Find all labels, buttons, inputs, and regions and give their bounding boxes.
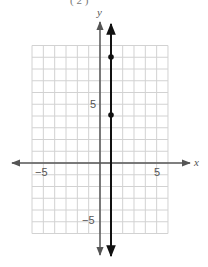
point-1-9 xyxy=(108,54,114,60)
header-fragment: ( 2 ) xyxy=(70,0,89,7)
x-tick-label-neg5: −5 xyxy=(35,166,48,178)
y-axis-label: y xyxy=(96,6,102,18)
coordinate-plane: ( 2 ) x y −5 5 5 −5 xyxy=(0,0,208,267)
x-axis-label: x xyxy=(193,156,199,168)
y-tick-label-neg5: −5 xyxy=(82,214,95,226)
y-tick-label-5: 5 xyxy=(90,98,96,110)
x-tick-label-5: 5 xyxy=(154,166,160,178)
point-1-4 xyxy=(108,112,114,118)
